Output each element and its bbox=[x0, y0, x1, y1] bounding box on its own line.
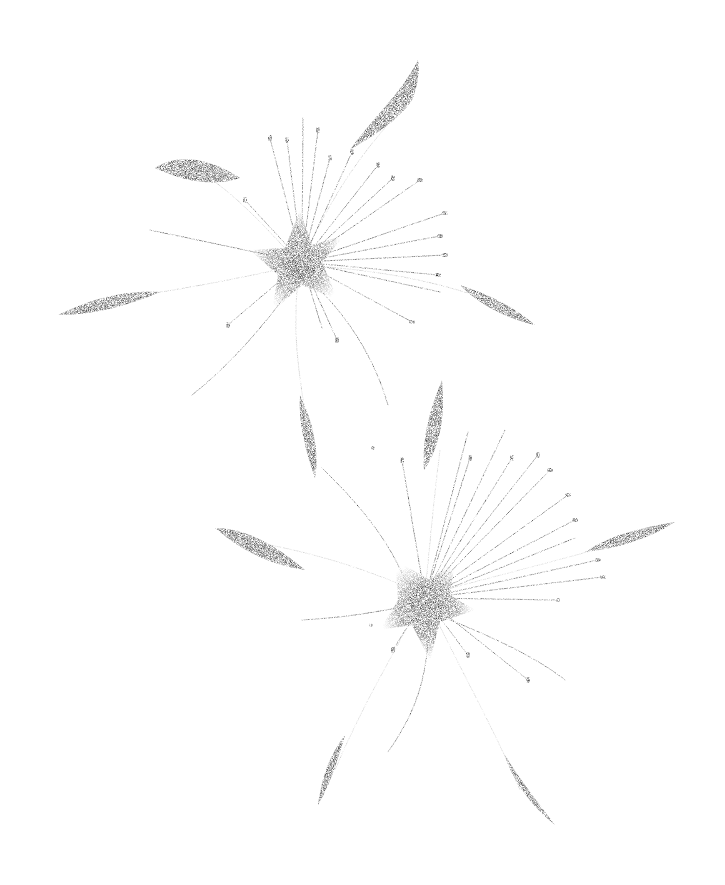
upper-flower bbox=[58, 60, 535, 478]
lower-flower bbox=[215, 380, 675, 825]
flower-illustration bbox=[0, 0, 725, 885]
flower-drawing bbox=[0, 0, 725, 885]
